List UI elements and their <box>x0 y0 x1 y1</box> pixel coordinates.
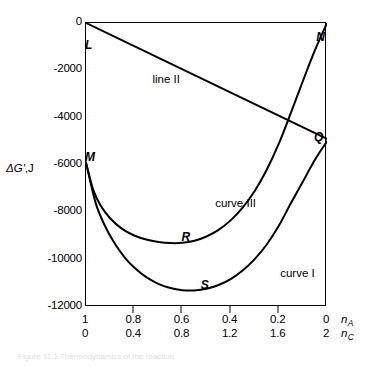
y-tick-label: -2000 <box>8 64 82 76</box>
x-tick-label-nc: 2 <box>306 327 346 339</box>
point-label-s: S <box>201 279 209 291</box>
figure-caption: Figure 11.1 Thermodynamics of the reacti… <box>18 352 358 361</box>
y-tick-label: -6000 <box>8 158 82 170</box>
plot-area <box>85 22 326 306</box>
x-tick-label-nc: 0.8 <box>161 327 201 339</box>
curve-III-label: curve III <box>215 197 256 209</box>
point-label-n: N <box>316 31 325 43</box>
x-tick-mark <box>133 306 134 313</box>
x-tick-mark <box>277 306 278 313</box>
y-tick-label: -4000 <box>8 111 82 123</box>
y-tick-label: 0 <box>8 16 82 28</box>
x-tick-label-na: 0 <box>306 313 346 325</box>
plot-svg <box>86 23 327 307</box>
x-tick-label-nc: 1.6 <box>258 327 298 339</box>
x-tick-mark <box>181 306 182 313</box>
line-II-label: line II <box>152 73 180 85</box>
x-tick-label-nc: 0 <box>65 327 105 339</box>
x-tick-label-na: 0.4 <box>210 313 250 325</box>
point-label-q: Q <box>314 131 323 143</box>
series-curve-iii <box>86 23 327 243</box>
y-tick-label: -10000 <box>8 253 82 265</box>
x-tick-mark <box>229 306 230 313</box>
y-axis-tick-labels: 0-2000-4000-6000-8000-10000-12000 <box>4 22 82 306</box>
x-axis-row-nc: 00.40.81.21.62nC <box>0 327 371 341</box>
figure-container: ΔG',J 0-2000-4000-6000-8000-10000-12000 … <box>0 0 371 367</box>
y-tick-label: -8000 <box>8 206 82 218</box>
point-label-m: M <box>85 151 95 163</box>
curve-I-label: curve I <box>280 267 315 279</box>
series-line-ii <box>86 23 327 139</box>
x-tick-label-na: 0.6 <box>161 313 201 325</box>
x-tick-label-nc: 0.4 <box>113 327 153 339</box>
x-axis-name-nc: nC <box>341 327 354 339</box>
point-label-r: R <box>181 231 190 243</box>
x-tick-label-na: 0.2 <box>258 313 298 325</box>
x-tick-label-na: 0.8 <box>113 313 153 325</box>
x-tick-label-na: 1 <box>65 313 105 325</box>
point-label-l: L <box>85 39 92 51</box>
x-axis-name-na: nA <box>341 313 353 325</box>
y-tick-label: -12000 <box>8 300 82 312</box>
x-tick-label-nc: 1.2 <box>210 327 250 339</box>
x-axis-row-na: 10.80.60.40.20nA <box>0 313 371 327</box>
